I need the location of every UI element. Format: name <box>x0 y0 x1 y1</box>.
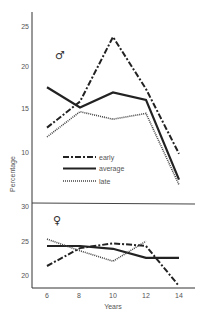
panel-divider <box>32 203 195 204</box>
male-early-line <box>47 37 179 154</box>
ytick-bottom-30: 30 <box>21 203 29 210</box>
male-late-line <box>47 112 179 185</box>
chart-figure: 25 20 15 10 30 25 20 6 8 10 12 14 Years … <box>0 0 207 317</box>
ytick-top-10: 10 <box>21 149 29 156</box>
xtick-10: 10 <box>109 292 117 299</box>
y-axis-label: Percentage <box>9 156 17 192</box>
xtick-14: 14 <box>175 292 183 299</box>
female-average-line <box>47 246 179 258</box>
xtick-6: 6 <box>45 292 49 299</box>
legend: early average late <box>63 154 124 185</box>
ytick-top-20: 20 <box>21 63 29 70</box>
female-symbol-icon: ♀ <box>53 214 61 227</box>
legend-average-label: average <box>99 165 124 173</box>
ytick-bottom-20: 20 <box>21 272 29 279</box>
xtick-12: 12 <box>142 292 150 299</box>
series-layer <box>47 37 179 286</box>
legend-early-label: early <box>99 154 115 162</box>
x-axis-label: Years <box>104 303 122 310</box>
male-symbol-icon: ♂ <box>55 49 65 62</box>
legend-late-label: late <box>99 178 110 185</box>
ytick-bottom-25: 25 <box>21 238 29 245</box>
ytick-top-25: 25 <box>21 23 29 30</box>
ytick-top-15: 15 <box>21 105 29 112</box>
xtick-8: 8 <box>77 292 81 299</box>
